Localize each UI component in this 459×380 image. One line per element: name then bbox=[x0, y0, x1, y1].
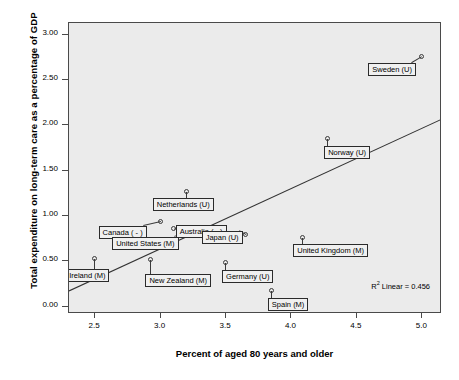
data-point-marker bbox=[92, 256, 97, 261]
scatter-chart: Total expenditure on long-term care as a… bbox=[0, 0, 459, 380]
plot-area: Ireland (M)New Zealand (M)Canada ( - )Un… bbox=[68, 22, 441, 313]
x-tick-label: 4.0 bbox=[276, 321, 304, 330]
y-tick-label: 1.00 bbox=[42, 209, 58, 218]
y-tick: 1.00 bbox=[0, 215, 68, 216]
x-tick-mark bbox=[160, 313, 161, 318]
data-point-label: United States (M) bbox=[112, 237, 178, 250]
data-point-label: United Kingdom (M) bbox=[293, 244, 368, 257]
data-point-marker bbox=[184, 189, 189, 194]
y-tick: 3.00 bbox=[0, 34, 68, 35]
x-tick-mark bbox=[225, 313, 226, 318]
data-point-label: Spain (M) bbox=[268, 298, 309, 311]
y-axis-title: Total expenditure on long-term care as a… bbox=[28, 1, 39, 301]
data-point-label: Ireland (M) bbox=[68, 269, 109, 282]
data-point-label: Netherlands (U) bbox=[153, 198, 214, 211]
x-tick-mark bbox=[290, 313, 291, 318]
y-tick: 2.00 bbox=[0, 124, 68, 125]
y-tick: 2.50 bbox=[0, 79, 68, 80]
x-tick-label: 2.5 bbox=[80, 321, 108, 330]
x-tick-mark bbox=[421, 313, 422, 318]
x-tick-label: 5.0 bbox=[407, 321, 435, 330]
y-tick: 0.00 bbox=[0, 306, 68, 307]
data-point-label: Japan (U) bbox=[202, 231, 243, 244]
data-point-label: Germany (U) bbox=[222, 270, 273, 283]
x-tick-label: 3.0 bbox=[146, 321, 174, 330]
y-tick-label: 2.50 bbox=[42, 73, 58, 82]
y-tick-label: 2.00 bbox=[42, 118, 58, 127]
data-point-label: Norway (U) bbox=[324, 146, 370, 159]
y-tick-label: 1.50 bbox=[42, 164, 58, 173]
x-tick-mark bbox=[356, 313, 357, 318]
y-tick: 0.50 bbox=[0, 260, 68, 261]
data-point-marker bbox=[243, 232, 248, 237]
x-tick-mark bbox=[94, 313, 95, 318]
x-axis-title: Percent of aged 80 years and older bbox=[68, 348, 441, 359]
y-tick-label: 0.50 bbox=[42, 254, 58, 263]
y-tick-label: 3.00 bbox=[42, 28, 58, 37]
data-point-label: Sweden (U) bbox=[368, 63, 416, 76]
r-squared-annotation: R2 Linear = 0.456 bbox=[371, 280, 430, 291]
x-tick-label: 4.5 bbox=[342, 321, 370, 330]
y-tick: 1.50 bbox=[0, 170, 68, 171]
x-tick-label: 3.5 bbox=[211, 321, 239, 330]
y-tick-label: 0.00 bbox=[42, 300, 58, 309]
data-point-label: New Zealand (M) bbox=[145, 274, 211, 287]
